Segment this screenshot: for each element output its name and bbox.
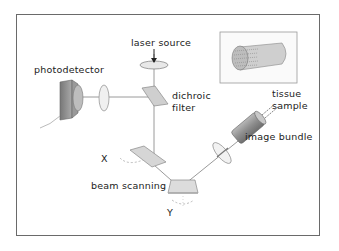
objective-lens	[210, 140, 234, 166]
label-axis-y: Y	[167, 207, 173, 218]
y-scan-mirror	[168, 180, 198, 206]
x-scan-mirror	[120, 146, 166, 167]
label-axis-x: X	[101, 153, 108, 164]
label-photodetector: photodetector	[34, 64, 104, 75]
dichroic-filter	[142, 86, 168, 106]
label-tissue-line1: tissue	[272, 88, 301, 99]
laser-source-lens	[140, 49, 168, 69]
label-tissue-line2: sample	[272, 100, 308, 111]
label-laser-source: laser source	[131, 37, 191, 48]
label-image-bundle: image bundle	[245, 131, 313, 142]
fiber-bundle-inset	[220, 32, 297, 83]
label-beam-scanning: beam scanning	[91, 180, 166, 191]
x-rotation-arrow-icon	[120, 158, 143, 163]
label-dichroic-line2: filter	[172, 102, 195, 113]
photodetector	[40, 80, 83, 128]
label-dichroic-line1: dichroic	[172, 90, 211, 101]
detector-cable	[40, 116, 60, 128]
detector-lens	[99, 85, 109, 111]
